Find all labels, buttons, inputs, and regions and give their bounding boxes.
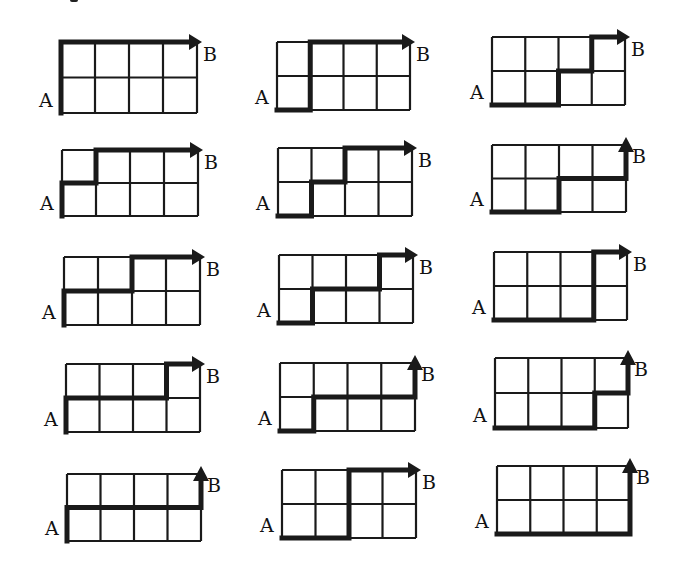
end-label-b: B	[636, 468, 650, 487]
lattice-path-figure-7: A B	[64, 257, 200, 325]
grid-with-path	[277, 42, 410, 110]
arrow-right-icon	[408, 462, 421, 478]
arrow-right-icon	[402, 34, 415, 50]
lattice-path-figure-12: A B	[495, 358, 628, 428]
end-label-b: B	[416, 45, 430, 64]
grid-with-path	[62, 150, 198, 216]
end-label-b: B	[421, 365, 435, 384]
start-label-a: A	[39, 91, 53, 110]
lattice-path-figure-1: A B	[61, 42, 197, 113]
arrow-right-icon	[192, 356, 205, 372]
start-label-a: A	[258, 409, 272, 428]
start-label-a: A	[260, 516, 274, 535]
lattice-path-figure-14: A B	[282, 470, 416, 538]
start-label-a: A	[470, 190, 484, 209]
start-label-a: A	[40, 194, 54, 213]
grid-with-path	[282, 470, 416, 538]
cropped-glyph	[70, 0, 78, 2]
lattice-path-figure-5: A B	[278, 148, 412, 216]
grid-with-path	[280, 363, 415, 431]
lattice-path-figure-11: A B	[280, 363, 415, 431]
end-label-b: B	[632, 147, 646, 166]
arrow-right-icon	[404, 140, 417, 156]
grid-with-path	[278, 148, 412, 216]
lattice-path-figure-10: A B	[66, 364, 200, 432]
grid-with-path	[66, 364, 200, 432]
grid-with-path	[494, 252, 627, 320]
end-label-b: B	[204, 153, 218, 172]
end-label-b: B	[422, 473, 436, 492]
arrow-right-icon	[617, 29, 630, 45]
start-label-a: A	[256, 194, 270, 213]
start-label-a: A	[257, 301, 271, 320]
lattice-path-figure-9: A B	[494, 252, 627, 320]
lattice-path-figure-4: A B	[62, 150, 198, 216]
end-label-b: B	[419, 258, 433, 277]
lattice-path-figure-8: A B	[279, 255, 413, 323]
arrow-right-icon	[405, 247, 418, 263]
grid-with-path	[492, 37, 625, 105]
arrow-right-icon	[190, 142, 203, 158]
arrow-right-icon	[192, 249, 205, 265]
start-label-a: A	[473, 406, 487, 425]
start-label-a: A	[45, 519, 59, 538]
lattice-path-figure-6: A B	[492, 145, 626, 212]
arrow-right-icon	[619, 244, 632, 260]
start-label-a: A	[470, 83, 484, 102]
start-label-a: A	[475, 512, 489, 531]
lattice-path-figure-13: A B	[67, 474, 201, 541]
grid-with-path	[64, 257, 200, 325]
grid-with-path	[61, 42, 197, 113]
lattice-path-figure-2: A B	[277, 42, 410, 110]
arrow-right-icon	[189, 34, 202, 50]
end-label-b: B	[418, 151, 432, 170]
grid-with-path	[497, 466, 630, 534]
lattice-path-figure-3: A B	[492, 37, 625, 105]
end-label-b: B	[206, 367, 220, 386]
end-label-b: B	[634, 360, 648, 379]
start-label-a: A	[255, 88, 269, 107]
start-label-a: A	[42, 303, 56, 322]
end-label-b: B	[206, 260, 220, 279]
end-label-b: B	[203, 45, 217, 64]
grid-with-path	[67, 474, 201, 541]
lattice-path-figure-15: A B	[497, 466, 630, 534]
grid-with-path	[492, 145, 626, 212]
grid-with-path	[495, 358, 628, 428]
start-label-a: A	[44, 410, 58, 429]
end-label-b: B	[207, 476, 221, 495]
end-label-b: B	[633, 255, 647, 274]
end-label-b: B	[631, 40, 645, 59]
start-label-a: A	[472, 298, 486, 317]
grid-with-path	[279, 255, 413, 323]
